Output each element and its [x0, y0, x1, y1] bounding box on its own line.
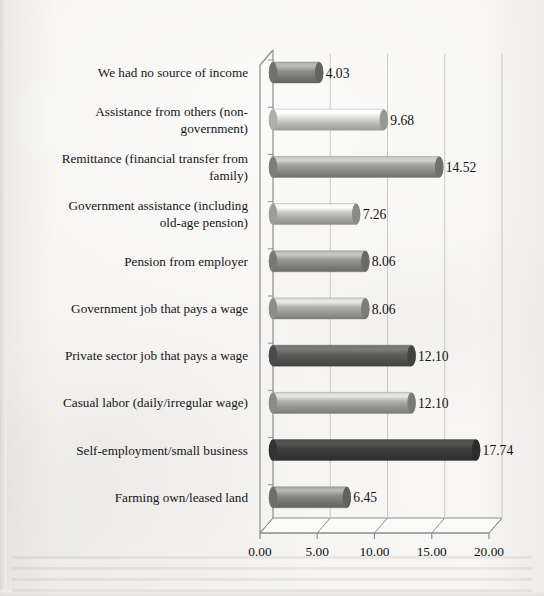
- chart-canvas: We had no source of incomeAssistance fro…: [0, 0, 544, 596]
- category-label: Government job that pays a wage: [71, 301, 248, 316]
- bar: [269, 109, 388, 130]
- category-label: Self-employment/small business: [76, 443, 248, 458]
- bar: [269, 156, 444, 177]
- category-label: Assistance from others (non-government): [95, 104, 248, 136]
- bar-value-label: 4.03: [326, 66, 350, 81]
- category-label: Casual labor (daily/irregular wage): [63, 395, 248, 410]
- x-tick-label: 20.00: [474, 544, 504, 559]
- x-tick-label: 5.00: [306, 544, 330, 559]
- bar-value-label: 8.06: [372, 254, 396, 269]
- bar-value-label: 12.10: [418, 396, 449, 411]
- bar: [269, 440, 481, 461]
- x-tick-label: 10.00: [359, 544, 389, 559]
- bar-value-label: 7.26: [363, 207, 387, 222]
- bar-value-label: 9.68: [390, 113, 414, 128]
- bar-value-label: 12.10: [418, 349, 449, 364]
- bar-chart-3d: We had no source of incomeAssistance fro…: [0, 0, 544, 596]
- x-axis-tick-labels: 0.005.0010.0015.0020.00: [248, 544, 504, 559]
- category-label: We had no source of income: [98, 65, 248, 80]
- bar-value-label: 17.74: [483, 443, 514, 458]
- category-label: Farming own/leased land: [115, 490, 249, 505]
- category-label: Government assistance (includingold-age …: [69, 198, 249, 230]
- chart-bars: [269, 62, 481, 508]
- category-label: Pension from employer: [124, 254, 248, 269]
- bar-value-label: 14.52: [446, 160, 477, 175]
- bar: [269, 392, 416, 413]
- bar-value-label: 8.06: [372, 302, 396, 317]
- bar: [269, 62, 324, 83]
- bar: [269, 487, 351, 508]
- category-label: Private sector job that pays a wage: [65, 348, 248, 363]
- bar: [269, 345, 416, 366]
- bar: [269, 251, 370, 272]
- bar-value-label: 6.45: [353, 490, 377, 505]
- x-tick-label: 15.00: [417, 544, 447, 559]
- category-labels: We had no source of incomeAssistance fro…: [62, 65, 249, 505]
- category-label: Remittance (financial transfer fromfamil…: [62, 151, 249, 183]
- bar: [269, 204, 361, 225]
- bar: [269, 298, 370, 319]
- x-tick-label: 0.00: [248, 544, 272, 559]
